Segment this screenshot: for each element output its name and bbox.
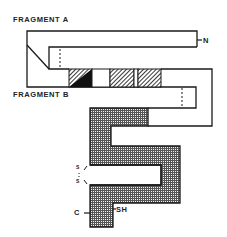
open-loop-gap [84,166,160,184]
disulfide-s2-label: S [76,178,80,184]
c-terminus-label: C [74,208,80,217]
n-terminus-label: N [203,36,209,45]
protein-fragment-diagram [0,0,227,237]
sh-label: SH [116,205,128,214]
fragment-b-label: FRAGMENT B [13,90,69,99]
disulfide-s1-label: S [76,164,80,170]
fragment-a-label: FRAGMENT A [13,15,69,24]
hatched-segments [69,69,161,87]
